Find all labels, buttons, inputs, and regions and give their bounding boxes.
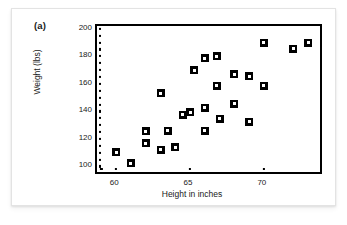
- data-point-marker: [213, 52, 221, 60]
- y-tick-mark: [99, 83, 101, 85]
- data-point-marker: [201, 127, 209, 135]
- y-tick-mark: [99, 159, 101, 161]
- data-point-marker: [260, 82, 268, 90]
- x-axis-title: Height in inches: [92, 189, 292, 199]
- y-tick-label: 180: [62, 50, 92, 59]
- y-tick-mark: [99, 97, 101, 99]
- data-point-marker: [157, 146, 165, 154]
- y-tick-mark: [99, 90, 101, 92]
- y-tick-mark: [99, 62, 101, 64]
- y-tick-mark: [99, 110, 101, 112]
- x-tick-label: 65: [173, 178, 203, 187]
- figure-card: (a) Weight (lbs) 100120140160180200 6065…: [11, 8, 336, 206]
- y-tick-label: 120: [62, 132, 92, 141]
- y-tick-label: 160: [62, 77, 92, 86]
- data-point-marker: [245, 118, 253, 126]
- data-point-marker: [260, 39, 268, 47]
- y-tick-mark: [99, 55, 101, 57]
- y-tick-mark: [99, 145, 101, 147]
- data-point-marker: [289, 45, 297, 53]
- data-point-marker: [142, 139, 150, 147]
- data-point-marker: [171, 143, 179, 151]
- x-tick-mark: [263, 168, 265, 170]
- x-tick-mark: [100, 168, 102, 170]
- x-tick-mark: [115, 168, 117, 170]
- data-point-marker: [304, 39, 312, 47]
- y-tick-mark: [99, 138, 101, 140]
- data-point-marker: [190, 66, 198, 74]
- data-point-marker: [164, 127, 172, 135]
- y-axis-tick-labels: 100120140160180200: [60, 24, 92, 174]
- y-tick-label: 200: [62, 22, 92, 31]
- y-tick-mark: [99, 103, 101, 105]
- y-tick-mark: [99, 41, 101, 43]
- y-tick-label: 100: [62, 160, 92, 169]
- y-tick-mark: [99, 152, 101, 154]
- data-point-marker: [186, 108, 194, 116]
- data-point-marker: [157, 89, 165, 97]
- data-point-marker: [112, 148, 120, 156]
- data-point-marker: [230, 70, 238, 78]
- y-axis-title: Weight (lbs): [32, 27, 42, 117]
- data-point-marker: [201, 104, 209, 112]
- data-point-marker: [216, 115, 224, 123]
- x-tick-label: 70: [247, 178, 277, 187]
- data-point-marker: [142, 127, 150, 135]
- data-point-marker: [245, 72, 253, 80]
- y-tick-mark: [99, 131, 101, 133]
- y-tick-mark: [99, 69, 101, 71]
- y-tick-mark: [99, 35, 101, 37]
- plot-area: [97, 26, 320, 172]
- data-point-marker: [201, 54, 209, 62]
- data-point-marker: [230, 100, 238, 108]
- plot-frame: [95, 24, 322, 174]
- data-point-marker: [213, 82, 221, 90]
- y-tick-label: 140: [62, 105, 92, 114]
- x-tick-label: 60: [99, 178, 129, 187]
- y-tick-mark: [99, 117, 101, 119]
- y-tick-mark: [99, 28, 101, 30]
- y-tick-mark: [99, 76, 101, 78]
- y-tick-mark: [99, 48, 101, 50]
- y-tick-mark: [99, 124, 101, 126]
- data-point-marker: [127, 159, 135, 167]
- x-tick-mark: [189, 168, 191, 170]
